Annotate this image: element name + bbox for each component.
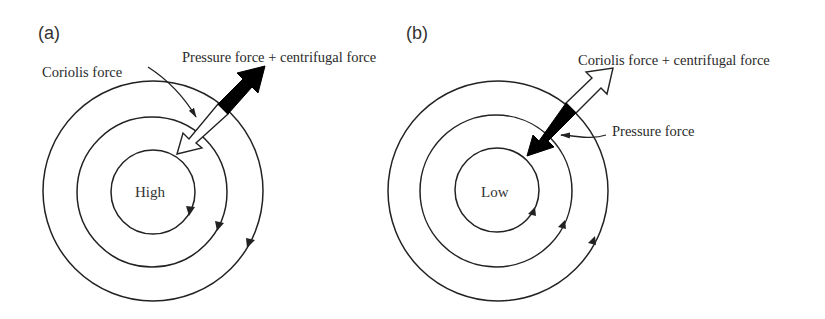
pressure-centrifugal-arrow-icon bbox=[218, 66, 265, 114]
flow-arrowheads-clockwise bbox=[186, 206, 255, 248]
arrowhead-icon bbox=[246, 238, 255, 248]
center-label-high: High bbox=[135, 184, 166, 200]
coriolis-arrow-icon bbox=[177, 104, 228, 154]
label-pressure-centrifugal: Pressure force + centrifugal force bbox=[182, 49, 376, 65]
arrowhead-icon bbox=[558, 220, 566, 229]
coriolis-centrifugal-arrow-icon bbox=[566, 68, 613, 113]
panel-a: (a) High Coriolis force Pressure force +… bbox=[38, 23, 376, 301]
pressure-pointer bbox=[561, 135, 606, 137]
coriolis-pointer bbox=[148, 67, 196, 117]
panel-b-label: (b) bbox=[406, 23, 428, 43]
arrowhead-icon bbox=[186, 206, 195, 216]
force-balance-diagram: (a) High Coriolis force Pressure force +… bbox=[0, 0, 825, 319]
flow-arrowheads-counterclockwise bbox=[528, 207, 596, 245]
arrowhead-icon bbox=[528, 207, 536, 216]
panel-a-label: (a) bbox=[38, 23, 60, 43]
diagram-canvas: (a) High Coriolis force Pressure force +… bbox=[0, 0, 825, 319]
panel-b: (b) Low Coriolis force + centrifugal for… bbox=[388, 23, 770, 301]
label-pressure-force: Pressure force bbox=[612, 123, 695, 139]
pressure-arrow-icon bbox=[527, 103, 576, 156]
center-label-low: Low bbox=[481, 184, 509, 200]
arrowhead-icon bbox=[588, 236, 596, 245]
label-coriolis-force: Coriolis force bbox=[42, 64, 122, 80]
label-coriolis-centrifugal: Coriolis force + centrifugal force bbox=[578, 52, 770, 68]
